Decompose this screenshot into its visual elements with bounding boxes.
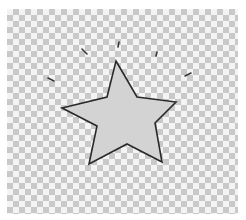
image-canvas <box>0 0 246 220</box>
star-artwork <box>0 0 246 220</box>
star-icon <box>62 61 176 164</box>
